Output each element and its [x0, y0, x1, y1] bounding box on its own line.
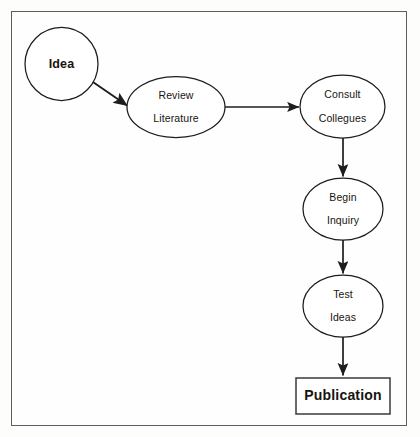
diagram-canvas: Idea Review Literature Consult Collegues…: [0, 0, 420, 437]
node-shape-idea[interactable]: [25, 28, 98, 101]
node-shape-begin-inquiry[interactable]: [303, 178, 383, 240]
node-shape-test-ideas[interactable]: [303, 275, 383, 337]
node-shape-review-literature[interactable]: [127, 77, 225, 138]
edge-idea-to-review-literature: [90, 80, 128, 106]
node-shape-consult-collegues[interactable]: [300, 75, 385, 138]
flowchart-graphics: [0, 0, 420, 437]
node-shape-publication[interactable]: [296, 378, 390, 414]
